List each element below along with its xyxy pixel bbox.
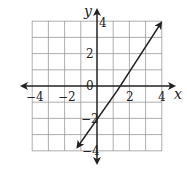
coordinate-plane: −4 −2 2 4 4 2 0 −2 −4 y x	[0, 0, 187, 173]
graph-line	[117, 23, 161, 91]
x-tick-4: 4	[158, 90, 166, 104]
y-tick-2: 2	[86, 47, 94, 61]
y-tick-4: 4	[99, 16, 107, 30]
y-tick-neg4: −4	[82, 144, 100, 158]
x-tick-neg4: −4	[26, 90, 44, 104]
x-tick-neg2: −2	[58, 90, 76, 104]
x-axis-label: x	[174, 86, 182, 102]
y-tick-0: 0	[86, 79, 94, 93]
x-tick-2: 2	[126, 90, 134, 104]
y-axis-label: y	[83, 3, 93, 19]
y-tick-neg2: −2	[81, 112, 99, 126]
